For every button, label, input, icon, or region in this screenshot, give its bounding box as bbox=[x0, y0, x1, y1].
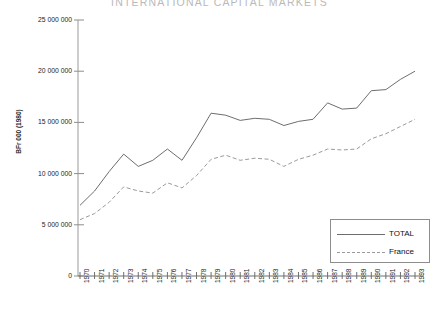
legend-item-france: France bbox=[331, 244, 431, 260]
chart-legend: TOTAL France bbox=[330, 219, 430, 263]
series-line-france bbox=[80, 119, 415, 219]
series-line-total bbox=[80, 71, 415, 205]
legend-label-france: France bbox=[389, 247, 414, 256]
y-axis-ticks bbox=[74, 20, 84, 276]
legend-swatch-france-icon bbox=[337, 252, 385, 253]
legend-item-total: TOTAL bbox=[331, 226, 431, 242]
legend-swatch-total-icon bbox=[337, 234, 385, 235]
plot-area bbox=[0, 0, 439, 327]
legend-label-total: TOTAL bbox=[389, 229, 414, 238]
chart-container: INTERNATIONAL CAPITAL MARKETS BFr 000 (1… bbox=[0, 0, 439, 327]
